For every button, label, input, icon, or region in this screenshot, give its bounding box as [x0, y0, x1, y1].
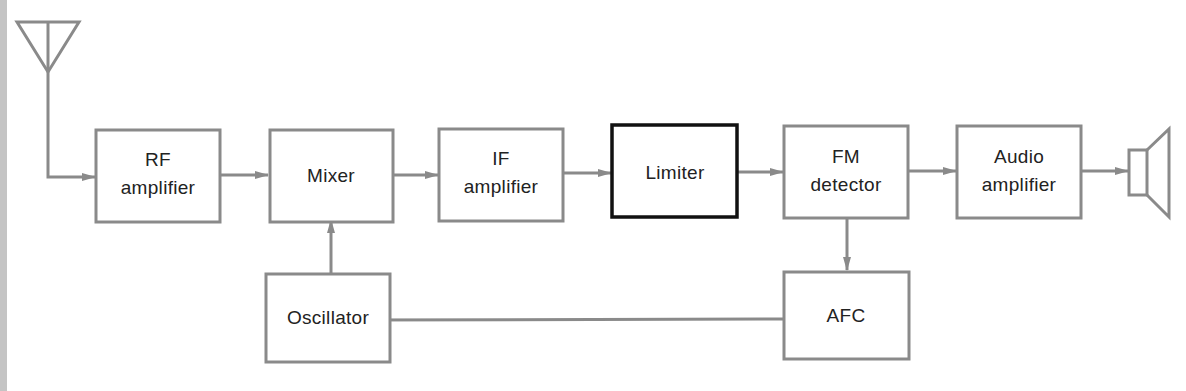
- block-oscillator: Oscillator: [266, 274, 390, 362]
- block-label: AFC: [827, 305, 866, 326]
- block-label: Audio: [994, 146, 1044, 167]
- block-label: amplifier: [464, 176, 539, 197]
- block-mixer: Mixer: [270, 130, 393, 222]
- speaker-icon: [1129, 129, 1169, 217]
- wire-antenna-to-rf: [48, 72, 95, 177]
- block-if-amplifier: IF amplifier: [439, 129, 563, 221]
- block-audio-amplifier: Audio amplifier: [957, 126, 1081, 218]
- antenna-icon: [17, 22, 79, 72]
- block-label: IF: [492, 148, 510, 169]
- block-afc: AFC: [784, 272, 909, 359]
- block-label: amplifier: [121, 177, 196, 198]
- block-label: RF: [145, 149, 171, 170]
- block-rf-amplifier: RF amplifier: [96, 130, 220, 222]
- block-label: Limiter: [645, 162, 704, 183]
- wire-afc-to-oscillator: [358, 319, 783, 320]
- block-limiter: Limiter: [612, 125, 737, 217]
- block-fm-detector: FM detector: [784, 126, 908, 218]
- block-label: amplifier: [982, 174, 1057, 195]
- block-label: FM: [832, 146, 860, 167]
- block-label: Mixer: [307, 165, 355, 186]
- block-label: detector: [810, 174, 881, 195]
- block-label: Oscillator: [287, 307, 370, 328]
- block-diagram: RF amplifier Mixer IF amplifier Limiter …: [0, 0, 1186, 391]
